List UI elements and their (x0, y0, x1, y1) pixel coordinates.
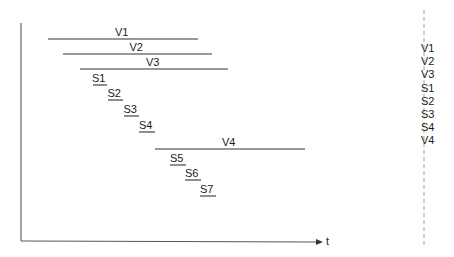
interval-label: S1 (92, 73, 105, 84)
x-axis (21, 241, 316, 242)
legend-item: V1 (421, 42, 434, 55)
interval-label: S5 (170, 153, 183, 164)
timeline-diagram (0, 0, 454, 257)
interval-label: S7 (200, 184, 213, 195)
x-axis-arrow-icon (316, 239, 323, 245)
interval-label: S4 (139, 120, 152, 131)
x-axis-label: t (326, 236, 329, 247)
legend-item: S2 (421, 95, 434, 108)
legend-item: S4 (421, 121, 434, 134)
interval-label: V4 (222, 137, 235, 148)
legend: V1 V2 V3 S1 S2 S3 S4 V4 (421, 42, 434, 148)
interval-label: S2 (108, 88, 121, 99)
interval-label: V3 (146, 57, 159, 68)
interval-label: V2 (130, 42, 143, 53)
interval-label: S6 (185, 168, 198, 179)
interval-label: V1 (115, 27, 128, 38)
interval-label: S3 (124, 104, 137, 115)
legend-item: V3 (421, 68, 434, 81)
legend-item: S3 (421, 108, 434, 121)
legend-item: S1 (421, 82, 434, 95)
legend-item: V2 (421, 55, 434, 68)
legend-item: V4 (421, 134, 434, 147)
